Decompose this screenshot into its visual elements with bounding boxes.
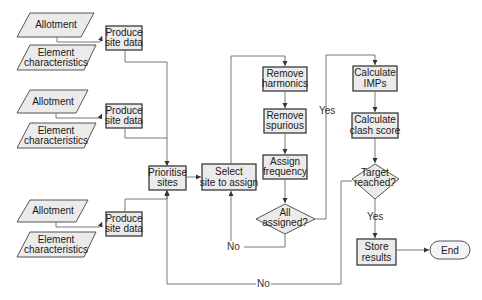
produce-label-3b: site data	[105, 223, 143, 234]
clash-label-b: clash score	[350, 125, 401, 136]
edge-label-yes: Yes	[319, 105, 335, 116]
harmonics-label-b: harmonics	[262, 78, 308, 89]
assign-label-b: frequency	[263, 166, 307, 177]
all-assigned-label-b: assigned?	[262, 217, 308, 228]
element-label-1b: characteristics	[24, 57, 88, 68]
select-label-a: Select	[215, 166, 243, 177]
produce-label-1b: site data	[105, 37, 143, 48]
element-label-2b: characteristics	[24, 135, 88, 146]
edge-label-target-yes: Yes	[367, 211, 383, 222]
edge-label-target-no: No	[257, 278, 270, 289]
connector	[125, 190, 167, 212]
clash-label-a: Calculate	[354, 114, 396, 125]
input-group-3: Allotment Element characteristics Produc…	[17, 190, 167, 257]
allotment-label-1: Allotment	[35, 19, 77, 30]
flowchart: Allotment Element characteristics Produc…	[0, 0, 482, 300]
imps-label-b: IMPs	[364, 78, 387, 89]
imps-label-a: Calculate	[354, 67, 396, 78]
element-label-3b: characteristics	[24, 244, 88, 255]
allotment-label-3: Allotment	[32, 205, 74, 216]
store-label-a: Store	[365, 241, 389, 252]
input-group-2: Allotment Element characteristics Produc…	[17, 90, 167, 148]
spurious-label-b: spurious	[266, 120, 304, 131]
target-label-b: reached?	[354, 177, 396, 188]
edge-label-no: No	[227, 241, 240, 252]
connector	[56, 113, 102, 118]
connector-no-loop	[167, 191, 256, 284]
connector	[56, 222, 102, 227]
prioritise-label-b: sites	[157, 177, 178, 188]
end-label: End	[441, 245, 459, 256]
allotment-label-2: Allotment	[32, 96, 74, 107]
produce-label-2b: site data	[105, 115, 143, 126]
connector-no-loop	[244, 234, 285, 247]
store-label-b: results	[362, 252, 391, 263]
connector	[125, 128, 167, 138]
select-label-b: site to assign	[200, 177, 258, 188]
